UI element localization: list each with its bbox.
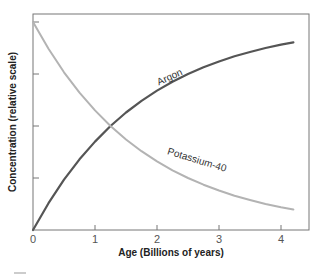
x-tick-label: 0 xyxy=(30,233,36,245)
series-label-potassium-40: Potassium-40 xyxy=(166,145,228,174)
x-tick-label: 3 xyxy=(216,233,222,245)
x-tick-label: 1 xyxy=(92,233,98,245)
x-axis-title: Age (Billions of years) xyxy=(118,247,224,258)
chart-figure: 01234 ArgonPotassium-40 Age (Billions of… xyxy=(0,0,326,275)
y-axis-title: Concentration (relative scale) xyxy=(7,52,18,192)
y-axis-ticks xyxy=(33,22,39,178)
x-axis-ticks: 01234 xyxy=(30,225,284,245)
x-tick-label: 2 xyxy=(154,233,160,245)
series-lines xyxy=(33,22,293,230)
x-tick-label: 4 xyxy=(278,233,284,245)
plot-frame xyxy=(33,14,309,230)
series-labels: ArgonPotassium-40 xyxy=(155,66,228,174)
